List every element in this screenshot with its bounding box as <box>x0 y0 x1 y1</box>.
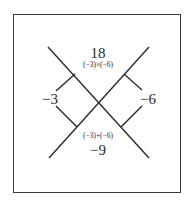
product-expression-label: (−3)×(−6) <box>83 61 113 69</box>
sum-value-label: −9 <box>90 143 106 158</box>
left-upper-connector-line <box>56 74 75 91</box>
product-value-label: 18 <box>91 46 106 61</box>
sum-expression-label: (−3)+(−6) <box>83 132 113 140</box>
right-lower-connector-line <box>121 106 142 127</box>
right-factor-label: −6 <box>140 92 156 107</box>
left-lower-connector-line <box>56 106 77 127</box>
left-factor-label: −3 <box>42 92 58 107</box>
right-upper-connector-line <box>124 74 142 90</box>
x-diagram-lines <box>0 0 190 200</box>
